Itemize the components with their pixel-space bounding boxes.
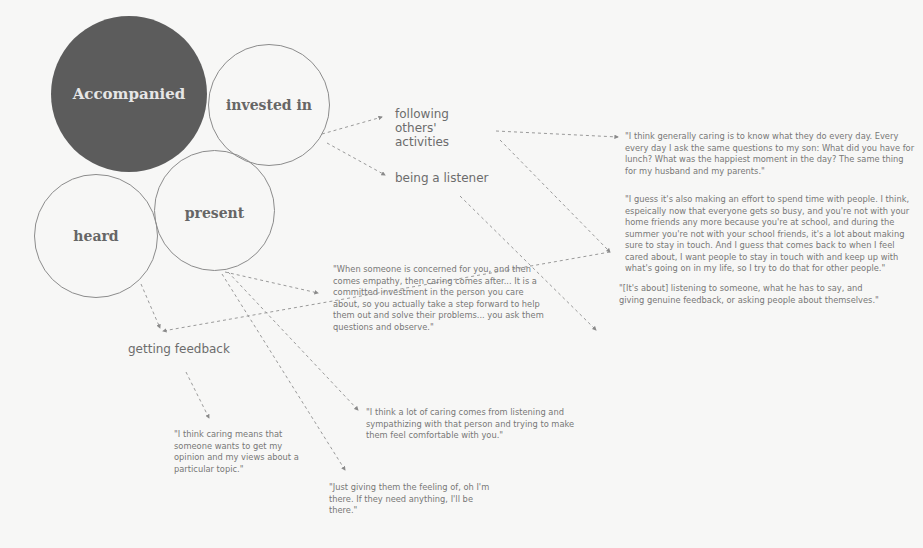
accompanied-label: Accompanied xyxy=(73,85,186,103)
concept-diagram: Accompanied invested in present heard fo… xyxy=(0,0,923,548)
heard-label: heard xyxy=(73,228,118,244)
quote-opinion: "I think caring means that someone wants… xyxy=(174,429,314,475)
present-label: present xyxy=(185,205,245,221)
being-a-listener-label: being a listener xyxy=(395,171,488,185)
quote-spend-time: "I guess it's also making an effort to s… xyxy=(625,194,915,275)
quote-sympathizing: "I think a lot of caring comes from list… xyxy=(366,407,576,442)
heard-circle: heard xyxy=(34,174,158,298)
present-circle: present xyxy=(154,150,275,271)
quote-listening: "[It's about] listening to someone, what… xyxy=(619,283,881,306)
quote-being-there: "Just giving them the feeling of, oh I'm… xyxy=(329,482,494,517)
quote-committed-investment: "When someone is concerned for you, and … xyxy=(333,264,545,333)
invested-in-circle: invested in xyxy=(208,44,330,166)
invested-in-label: invested in xyxy=(226,97,312,113)
following-others-label: following others' activities xyxy=(395,107,485,149)
quote-daily-questions: "I think generally caring is to know wha… xyxy=(625,131,915,177)
getting-feedback-label: getting feedback xyxy=(128,342,230,356)
accompanied-circle: Accompanied xyxy=(51,16,207,172)
